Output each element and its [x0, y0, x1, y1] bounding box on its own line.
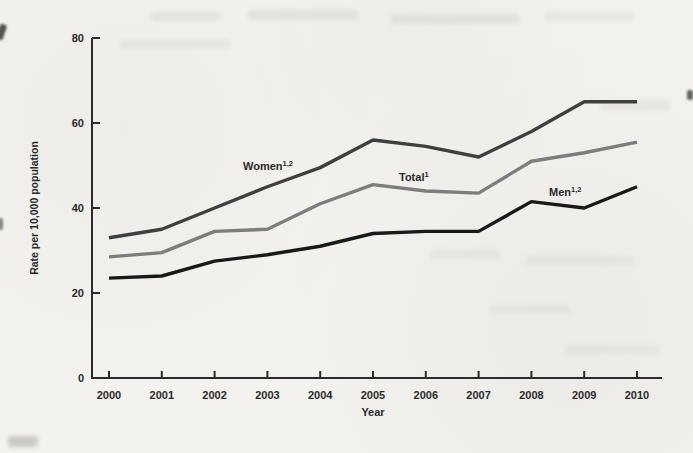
series-label-total: Total1 — [399, 170, 429, 183]
x-tick-label-2001: 2001 — [150, 389, 174, 401]
series-label-women: Women1,2 — [243, 159, 293, 172]
x-tick-label-2000: 2000 — [97, 389, 121, 401]
x-tick-label-2007: 2007 — [466, 389, 490, 401]
y-tick-label-80: 80 — [72, 32, 84, 44]
x-tick-label-2002: 2002 — [202, 389, 226, 401]
y-tick-label-0: 0 — [78, 372, 84, 384]
x-tick-label-2003: 2003 — [255, 389, 279, 401]
x-tick-label-2009: 2009 — [572, 389, 596, 401]
x-tick-label-2004: 2004 — [308, 389, 333, 401]
series-line-total — [109, 142, 637, 257]
y-tick-label-20: 20 — [72, 287, 84, 299]
series-line-women — [109, 102, 637, 238]
y-tick-label-40: 40 — [72, 202, 84, 214]
x-axis-title: Year — [361, 406, 385, 418]
x-tick-label-2006: 2006 — [414, 389, 438, 401]
rate-line-chart: 0204060802000200120022003200420052006200… — [0, 0, 693, 453]
x-tick-label-2005: 2005 — [361, 389, 385, 401]
series-line-men — [109, 187, 637, 278]
scanned-page: 0204060802000200120022003200420052006200… — [0, 0, 693, 453]
y-axis-title: Rate per 10,000 population — [28, 141, 40, 275]
y-tick-label-60: 60 — [72, 117, 84, 129]
x-tick-label-2008: 2008 — [519, 389, 543, 401]
series-label-men: Men1,2 — [549, 185, 581, 198]
x-tick-label-2010: 2010 — [625, 389, 649, 401]
